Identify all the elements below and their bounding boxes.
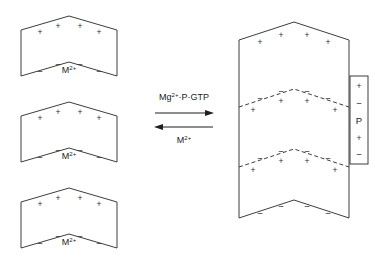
charge-plus: + [56, 21, 61, 31]
polymer-outline [239, 22, 349, 218]
p-box: + − P + − [350, 76, 368, 164]
charge-minus: − [37, 152, 43, 163]
charge-minus: − [356, 98, 362, 109]
charge-minus: − [77, 145, 83, 156]
charge-plus: + [38, 27, 43, 37]
charge-minus: − [257, 153, 263, 164]
forward-arrow-icon [155, 110, 214, 116]
charge-plus: + [78, 193, 83, 203]
charge-plus: + [333, 105, 338, 115]
left-subunit-2: + + + + − − − − M2+ [21, 102, 117, 163]
charge-minus: − [37, 238, 43, 249]
reverse-reaction-label: M2+ [177, 135, 192, 146]
charge-plus: + [357, 133, 362, 143]
charge-plus: + [56, 107, 61, 117]
charge-minus: − [77, 59, 83, 70]
charge-plus: + [56, 193, 61, 203]
charge-minus: − [278, 146, 284, 157]
ion-label: M2+ [62, 151, 77, 162]
charge-minus: − [96, 238, 102, 249]
charge-minus: − [96, 66, 102, 77]
reverse-arrow-icon [154, 124, 213, 130]
diagram-svg: + + + + − − − − M2+ + + + + − − − − M2+ [0, 0, 375, 267]
charge-plus: + [305, 30, 310, 40]
left-subunit-1: + + + + − − − − M2+ [21, 16, 117, 77]
charge-minus: − [55, 145, 61, 156]
charge-plus: + [279, 156, 284, 166]
charge-plus: + [357, 81, 362, 91]
charge-minus: − [325, 93, 331, 104]
left-subunit-3: + + + + − − − − M2+ [21, 188, 117, 249]
charge-plus: + [78, 107, 83, 117]
charge-minus: − [304, 86, 310, 97]
charge-plus: + [305, 96, 310, 106]
charge-minus: − [257, 93, 263, 104]
charge-plus: + [251, 165, 256, 175]
charge-minus: − [77, 231, 83, 242]
charge-minus: − [96, 152, 102, 163]
charge-minus: − [55, 231, 61, 242]
charge-plus: + [78, 21, 83, 31]
charge-minus: − [278, 86, 284, 97]
charge-plus: + [251, 105, 256, 115]
charge-plus: + [38, 113, 43, 123]
charge-minus: − [278, 201, 284, 212]
assembled-polymer: + + + + − − − − + + + + − − − − + + + + … [239, 22, 349, 219]
charge-minus: − [257, 208, 263, 219]
charge-plus: + [279, 30, 284, 40]
p-box-label: P [356, 115, 362, 126]
charge-plus: + [333, 165, 338, 175]
charge-plus: + [97, 27, 102, 37]
reaction-arrows: Mg2+·P·GTP M2+ [154, 92, 214, 146]
forward-reaction-label: Mg2+·P·GTP [159, 92, 209, 103]
ion-label: M2+ [62, 237, 77, 248]
charge-plus: + [97, 199, 102, 209]
diagram-canvas: + + + + − − − − M2+ + + + + − − − − M2+ [0, 0, 375, 267]
charge-minus: − [356, 149, 362, 160]
charge-minus: − [304, 201, 310, 212]
charge-minus: − [304, 146, 310, 157]
charge-minus: − [37, 66, 43, 77]
charge-minus: − [325, 153, 331, 164]
charge-minus: − [325, 208, 331, 219]
charge-plus: + [38, 199, 43, 209]
charge-plus: + [97, 113, 102, 123]
charge-minus: − [55, 59, 61, 70]
charge-plus: + [326, 37, 331, 47]
charge-plus: + [258, 37, 263, 47]
charge-plus: + [279, 96, 284, 106]
ion-label: M2+ [62, 65, 77, 76]
charge-plus: + [305, 156, 310, 166]
